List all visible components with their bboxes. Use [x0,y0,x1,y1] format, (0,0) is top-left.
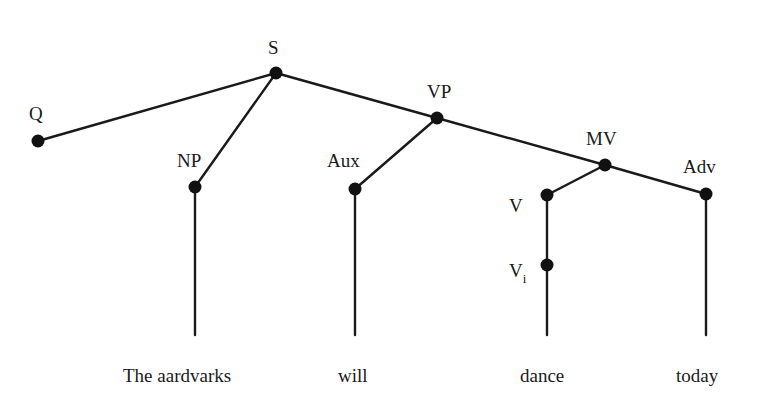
word-dance: dance [520,365,564,386]
node-aux [349,183,362,196]
node-vp [431,112,444,125]
label-vi-subscript: i [523,271,527,286]
word-today: today [676,365,719,386]
label-mv: MV [586,128,617,149]
node-mv [599,159,612,172]
node-labels: S Q NP VP Aux MV V Vi Adv [29,37,716,286]
word-the-aardvarks: The aardvarks [123,365,231,386]
tree-edges [38,73,706,335]
node-np [189,181,202,194]
edge-s-q [38,73,276,141]
edge-s-vp [276,73,437,118]
label-adv: Adv [683,156,716,177]
terminal-words: The aardvarks will dance today [123,365,719,386]
label-vi: Vi [509,260,527,286]
edge-vp-mv [437,118,605,165]
label-vi-base: V [509,260,523,281]
label-aux: Aux [327,150,360,171]
node-adv [700,188,713,201]
label-vp: VP [427,81,451,102]
tree-nodes [32,67,713,272]
edge-s-np [195,73,276,187]
label-np: NP [177,150,201,171]
word-will: will [338,365,368,386]
node-v [541,189,554,202]
syntax-tree-diagram: S Q NP VP Aux MV V Vi Adv The aardvarks … [0,0,761,406]
edge-vp-aux [355,118,437,189]
label-q: Q [29,103,43,124]
node-q [32,135,45,148]
edge-mv-v [547,165,605,195]
node-vi [541,259,554,272]
label-v: V [509,195,523,216]
label-s: S [268,37,279,58]
node-s [270,67,283,80]
